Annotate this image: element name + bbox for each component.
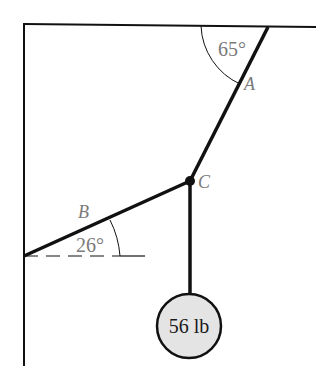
rope-b: [24, 181, 190, 256]
rope-label-a: A: [243, 74, 256, 94]
angle-arc-b: [110, 220, 120, 256]
joint-label-c: C: [198, 172, 211, 192]
joint-c: [185, 176, 195, 186]
weight-label: 56 lb: [169, 315, 210, 337]
diagram-canvas: 65° A B 26° C 56 lb: [0, 0, 330, 390]
angle-label-b: 26°: [76, 234, 104, 256]
angle-label-a: 65°: [218, 38, 246, 60]
rope-label-b: B: [78, 202, 89, 222]
ceiling: [24, 24, 316, 27]
